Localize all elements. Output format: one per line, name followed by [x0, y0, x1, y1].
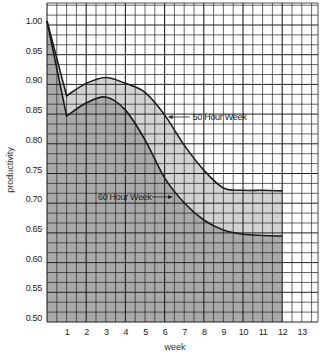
x-tick-label: 6: [163, 327, 168, 337]
x-tick-label: 5: [143, 327, 148, 337]
x-tick-label: 1: [65, 327, 70, 337]
x-axis-ticks: 12345678910111213: [65, 327, 308, 337]
y-axis-ticks: 1.000.950.900.850.800.750.700.650.600.55…: [26, 16, 43, 323]
x-tick-label: 11: [259, 327, 268, 337]
y-tick-label: 1.00: [26, 16, 43, 26]
x-tick-label: 4: [124, 327, 129, 337]
x-tick-label: 7: [182, 327, 187, 337]
annotation-60-hour-week: 60 Hour Week: [98, 192, 153, 202]
y-tick-label: 0.65: [26, 224, 43, 234]
y-tick-label: 0.50: [26, 313, 43, 323]
y-axis-label: productivity: [5, 147, 15, 193]
x-tick-label: 13: [298, 327, 308, 337]
x-tick-label: 2: [84, 327, 89, 337]
y-tick-label: 0.80: [26, 135, 43, 145]
productivity-chart: 1.000.950.900.850.800.750.700.650.600.55…: [0, 0, 324, 356]
x-tick-label: 10: [239, 327, 249, 337]
arrow-left-icon: [168, 115, 173, 119]
y-tick-label: 0.60: [26, 254, 43, 264]
x-tick-label: 8: [202, 327, 207, 337]
y-tick-label: 0.85: [26, 105, 43, 115]
x-tick-label: 3: [104, 327, 109, 337]
y-tick-label: 0.70: [26, 194, 43, 204]
y-tick-label: 0.90: [26, 75, 43, 85]
x-tick-label: 12: [278, 327, 288, 337]
annotation-50-hour-week: 50 Hour Week: [193, 112, 248, 122]
y-tick-label: 0.75: [26, 165, 43, 175]
x-axis-label: week: [163, 342, 186, 352]
x-tick-label: 9: [222, 327, 227, 337]
y-tick-label: 0.55: [26, 283, 43, 293]
y-tick-label: 0.95: [26, 46, 43, 56]
